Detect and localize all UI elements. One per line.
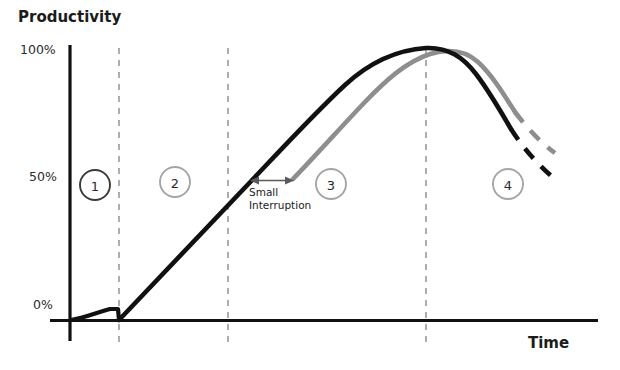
y-tick-label-100: 100% xyxy=(20,42,56,57)
phase-marker-4[interactable]: 4 xyxy=(493,169,523,199)
x-axis-title: Time xyxy=(528,334,569,352)
small-interruption-label-line1: Small xyxy=(249,186,278,198)
phase-marker-3[interactable]: 3 xyxy=(316,169,346,199)
phase-marker-3-label: 3 xyxy=(327,178,335,193)
phase-marker-1-label: 1 xyxy=(91,179,99,194)
phase-marker-1[interactable]: 1 xyxy=(80,170,110,200)
productivity-chart: Productivity Time 100% 50% 0% Small Inte… xyxy=(0,0,620,370)
y-tick-label-0: 0% xyxy=(33,297,53,312)
phase-marker-4-label: 4 xyxy=(504,178,512,193)
chart-canvas: Productivity Time 100% 50% 0% Small Inte… xyxy=(0,0,620,370)
small-interruption-label-line2: Interruption xyxy=(249,199,311,211)
y-tick-label-50: 50% xyxy=(29,169,57,184)
primary-productivity-curve-bump xyxy=(71,309,119,320)
y-axis-title: Productivity xyxy=(18,8,121,26)
interrupted-productivity-curve-solid xyxy=(293,51,515,179)
phase-marker-2[interactable]: 2 xyxy=(160,167,190,197)
phase-marker-2-label: 2 xyxy=(171,176,179,191)
interrupted-productivity-curve-dashed xyxy=(515,112,555,153)
